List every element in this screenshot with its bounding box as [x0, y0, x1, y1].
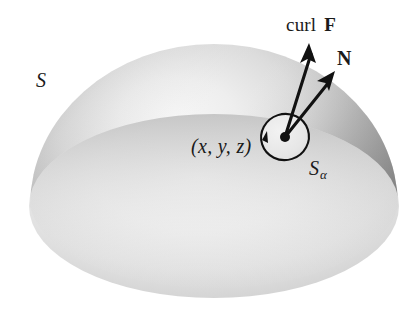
label-curl-prefix: curl	[286, 14, 321, 35]
label-patch-subscript-alpha: α	[319, 167, 327, 182]
label-patch-s-alpha: Sα	[309, 158, 327, 181]
label-surface-s: S	[36, 70, 46, 90]
label-curl-f: curl F	[286, 15, 336, 34]
label-point-coordinates: (x, y, z)	[191, 136, 251, 156]
label-curl-vector-f: F	[321, 14, 336, 35]
label-normal-n: N	[337, 48, 351, 68]
label-patch-base: S	[309, 157, 319, 179]
diagram-canvas	[0, 0, 417, 315]
figure-hemisphere-stokes: S curl F N (x, y, z) Sα	[0, 0, 417, 315]
point-dot-marker	[280, 132, 290, 142]
